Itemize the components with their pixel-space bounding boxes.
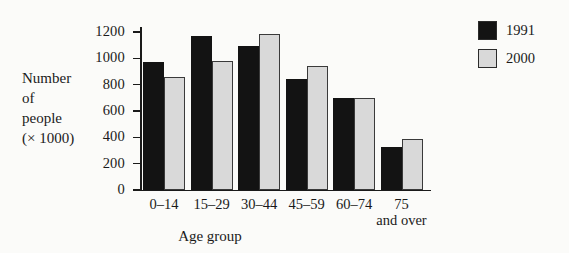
legend-swatch-light-gray-square xyxy=(478,49,497,68)
y-tick-label: 600 xyxy=(85,103,125,118)
bar-2000-30-44 xyxy=(259,34,280,190)
bar-chart-figure: Number of people (× 1000) 02004006008001… xyxy=(0,0,569,253)
bar-1991-75-and-over xyxy=(381,147,402,190)
y-tick-label: 1000 xyxy=(85,50,125,65)
y-tick-mark xyxy=(133,110,140,111)
y-tick-label: 800 xyxy=(85,77,125,92)
legend-label-2000: 2000 xyxy=(506,50,535,67)
y-tick-label: 1200 xyxy=(85,24,125,39)
bar-2000-0-14 xyxy=(164,77,185,190)
bar-1991-60-74 xyxy=(333,98,354,190)
bar-2000-75-and-over xyxy=(402,139,423,190)
bar-2000-60-74 xyxy=(354,98,375,190)
legend-label-1991: 1991 xyxy=(506,22,535,39)
legend: 1991 2000 xyxy=(478,18,535,74)
y-tick-label: 400 xyxy=(85,129,125,144)
bar-2000-15-29 xyxy=(212,61,233,190)
x-axis-title: Age group xyxy=(0,228,420,245)
y-tick-mark xyxy=(133,163,140,164)
bar-1991-0-14 xyxy=(143,62,164,190)
y-tick-mark xyxy=(133,31,140,32)
x-category-label-line: and over xyxy=(357,212,447,228)
bar-2000-45-59 xyxy=(307,66,328,190)
bar-1991-15-29 xyxy=(191,36,212,190)
y-tick-mark xyxy=(133,189,140,190)
y-tick-label: 200 xyxy=(85,156,125,171)
bar-1991-30-44 xyxy=(238,46,259,190)
y-tick-label: 0 xyxy=(85,182,125,197)
legend-swatch-black-square xyxy=(478,21,497,40)
y-tick-mark xyxy=(133,137,140,138)
x-category-label-line: 75 xyxy=(394,196,409,212)
y-tick-mark xyxy=(133,58,140,59)
plot-area xyxy=(141,25,431,190)
y-tick-mark xyxy=(133,84,140,85)
legend-item-1991: 1991 xyxy=(478,18,535,42)
legend-item-2000: 2000 xyxy=(478,46,535,70)
x-category-label: 75and over xyxy=(357,196,447,228)
bar-1991-45-59 xyxy=(286,79,307,190)
